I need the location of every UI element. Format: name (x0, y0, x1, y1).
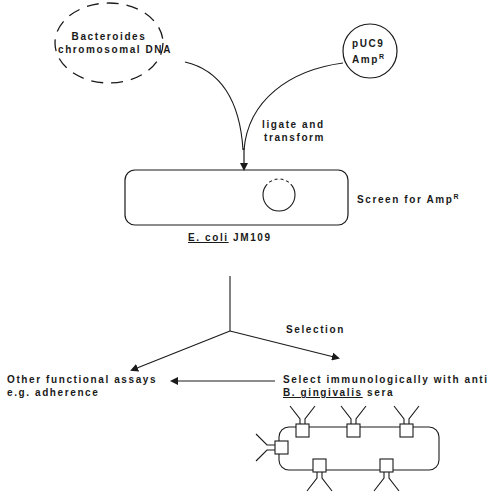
other-assays-label: Other functional assays e.g. adherence (7, 373, 157, 399)
select-immuno-label: Select immunologically with anti B. ging… (283, 373, 489, 399)
dna-curve (185, 62, 243, 150)
screen-ampr-label: Screen for AmpR (357, 190, 460, 206)
ligate-transform-label: ligate and transform (262, 118, 325, 144)
diagram-canvas (0, 0, 494, 496)
bacteroides-dna-label: Bacteroides chromosomal DNA (61, 30, 157, 56)
branch-left-arrow (132, 331, 230, 370)
antibody-bound-cell (256, 406, 439, 491)
selection-label: Selection (286, 323, 345, 336)
ecoli-label: E. coli JM109 (188, 231, 272, 244)
ecoli-cell (125, 170, 348, 225)
puc9-label: pUC9 AmpR (352, 37, 386, 66)
